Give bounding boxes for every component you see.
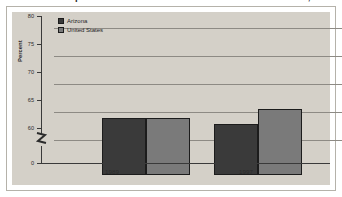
x-tick-label-1989: 1989 [82,168,142,175]
bar-united-states-1997 [258,109,302,175]
y-tick-label-60: 60 [10,125,34,131]
x-tick-label-1997: 1997 [216,168,276,175]
legend-label-united-states: United States [67,27,103,33]
y-axis-label: Percent [17,10,23,62]
chart-figure: Percent with up-to-date immunizations: A… [0,0,342,197]
legend-item-arizona: Arizona [58,16,103,25]
y-tick-label-0: 0 [10,160,34,166]
y-tick-mark-60 [37,128,42,129]
plot-area [54,28,342,175]
y-tick-label-70: 70 [10,69,34,75]
chart-title: Percent with up-to-date immunizations: A… [10,0,330,3]
bar-united-states-1989 [146,118,190,175]
x-axis-line [41,163,330,164]
chart-legend: Arizona United States [58,16,103,34]
y-tick-mark-80 [37,16,42,17]
bar-arizona-1989 [102,118,146,175]
y-tick-mark-75 [37,44,42,45]
legend-swatch-united-states [58,27,64,33]
y-axis-line [41,16,42,134]
gridline-70 [54,84,342,85]
gridline-75 [54,56,342,57]
legend-swatch-arizona [58,18,64,24]
legend-item-united-states: United States [58,25,103,34]
y-tick-mark-65 [37,100,42,101]
y-tick-label-65: 65 [10,97,34,103]
y-tick-mark-70 [37,72,42,73]
plot-panel [12,12,330,185]
axis-break-icon [34,131,50,149]
legend-label-arizona: Arizona [67,18,87,24]
y-tick-mark-0 [37,163,42,164]
